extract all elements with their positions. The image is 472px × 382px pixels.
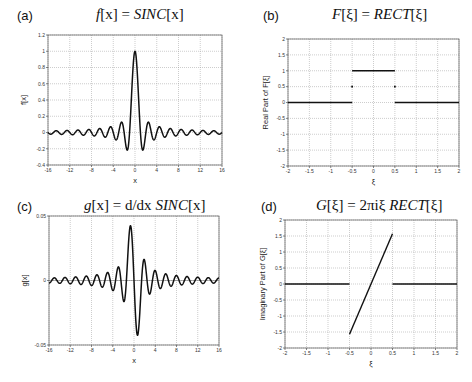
x-tick-label: -12	[66, 167, 73, 173]
x-tick-label: 0	[133, 347, 136, 353]
x-tick-label: 2	[458, 168, 461, 174]
x-axis-label: x	[133, 176, 137, 185]
y-tick-label: 0	[42, 129, 45, 135]
x-tick-label: 1.5	[434, 168, 441, 174]
y-tick-label: 0.05	[36, 213, 46, 219]
y-tick-label: 0.2	[38, 113, 45, 119]
y-tick-label: 0.4	[38, 97, 45, 103]
x-tick-label: -0.5	[345, 350, 354, 356]
y-tick-label: -1.5	[273, 329, 282, 335]
y-tick-label: 0.5	[275, 265, 282, 271]
y-tick-label: 0.6	[38, 81, 45, 87]
x-axis-label: ξ	[369, 359, 373, 368]
x-tick-label: 1	[413, 350, 416, 356]
chart-c: -16-12-8-40481216-0.0500.05xg[x]	[20, 213, 222, 365]
x-tick-label: -1.5	[302, 350, 311, 356]
data-point	[351, 86, 353, 88]
x-tick-label: 0.5	[391, 168, 398, 174]
y-tick-label: -2	[278, 345, 283, 351]
charts-canvas: -16-12-8-40481216-0.4-0.200.20.40.60.811…	[0, 0, 472, 382]
x-tick-label: 0	[134, 167, 137, 173]
y-tick-label: -1	[278, 313, 283, 319]
y-tick-label: -0.2	[36, 146, 45, 152]
x-tick-label: -1.5	[305, 168, 314, 174]
y-axis-label: Real Part of F[ξ]	[261, 76, 270, 130]
x-axis-label: ξ	[372, 177, 376, 186]
x-tick-label: -16	[44, 167, 51, 173]
y-tick-label: 2	[279, 217, 282, 223]
y-tick-label: 1	[279, 249, 282, 255]
y-tick-label: 1	[282, 68, 285, 74]
y-tick-label: 1.2	[38, 32, 45, 38]
x-tick-label: 8	[175, 347, 178, 353]
y-tick-label: -0.05	[35, 342, 47, 348]
x-tick-label: 12	[197, 167, 203, 173]
x-tick-label: -0.5	[348, 168, 357, 174]
y-tick-label: -0.4	[36, 162, 45, 168]
y-tick-label: -1.5	[276, 147, 285, 153]
y-tick-label: 0.8	[38, 64, 45, 70]
y-axis-label: Imaginary Part of G[ξ]	[258, 248, 267, 321]
y-tick-label: 0	[43, 277, 46, 283]
y-axis-label: g[x]	[20, 274, 29, 286]
x-tick-label: 16	[219, 167, 225, 173]
y-tick-label: 1.5	[275, 233, 282, 239]
x-tick-label: -1	[329, 168, 334, 174]
chart-d: -2-1.5-1-0.500.511.52-2-1.5-1-0.500.511.…	[258, 217, 459, 368]
x-axis-label: x	[132, 356, 136, 365]
chart-b: -2-1.5-1-0.500.511.52-2-1.5-1-0.500.511.…	[261, 36, 461, 186]
x-tick-label: 8	[177, 167, 180, 173]
x-tick-label: -12	[67, 347, 74, 353]
y-axis-label: f[x]	[19, 95, 28, 105]
y-tick-label: 1	[42, 48, 45, 54]
y-tick-label: -1	[281, 131, 286, 137]
x-tick-label: -4	[111, 167, 116, 173]
y-tick-label: 2	[282, 36, 285, 42]
x-tick-label: 1	[415, 168, 418, 174]
x-tick-label: 0	[370, 350, 373, 356]
x-tick-label: -8	[89, 167, 94, 173]
y-tick-label: 1.5	[278, 52, 285, 58]
x-tick-label: -2	[283, 350, 288, 356]
x-tick-label: 16	[216, 347, 222, 353]
x-tick-label: 0.5	[389, 350, 396, 356]
x-tick-label: 4	[154, 347, 157, 353]
y-tick-label: 0.5	[278, 83, 285, 89]
x-tick-label: -16	[45, 347, 52, 353]
x-tick-label: -4	[111, 347, 116, 353]
chart-a: -16-12-8-40481216-0.4-0.200.20.40.60.811…	[19, 32, 225, 185]
x-tick-label: -8	[89, 347, 94, 353]
x-tick-label: 1.5	[432, 350, 439, 356]
y-tick-label: 0	[282, 99, 285, 105]
x-tick-label: 12	[195, 347, 201, 353]
y-tick-label: 0	[279, 281, 282, 287]
y-tick-label: -2	[281, 163, 286, 169]
y-tick-label: -0.5	[276, 115, 285, 121]
data-point	[394, 86, 396, 88]
x-tick-label: -1	[326, 350, 331, 356]
x-tick-label: -2	[286, 168, 291, 174]
x-tick-label: 4	[155, 167, 158, 173]
x-tick-label: 0	[372, 168, 375, 174]
x-tick-label: 2	[456, 350, 459, 356]
y-tick-label: -0.5	[273, 297, 282, 303]
